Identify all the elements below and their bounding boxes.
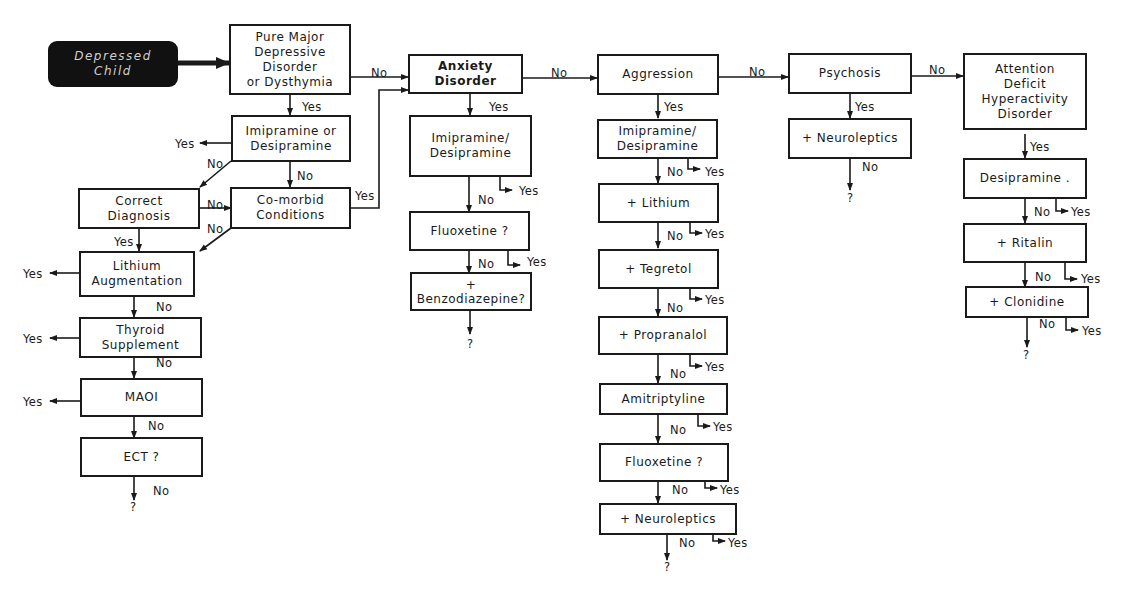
node-maoi: MAOI bbox=[80, 378, 203, 417]
label-no: No bbox=[297, 170, 313, 182]
label-yes: Yes bbox=[728, 537, 747, 549]
label-yes: Yes bbox=[664, 101, 683, 113]
node-desipramine: Desipramine . bbox=[963, 158, 1087, 199]
label-no: No bbox=[551, 67, 567, 79]
label-unknown: ? bbox=[130, 501, 136, 513]
node-correct-diagnosis: Correct Diagnosis bbox=[78, 188, 200, 229]
label-no: No bbox=[148, 420, 164, 432]
label-no: No bbox=[478, 194, 494, 206]
label-yes: Yes bbox=[23, 268, 42, 280]
label-yes: Yes bbox=[527, 256, 546, 268]
label-no: No bbox=[371, 67, 387, 79]
node-propranalol: + Propranalol bbox=[598, 316, 728, 355]
node-psychosis-neuroleptics: + Neuroleptics bbox=[788, 118, 912, 159]
label-yes: Yes bbox=[1081, 273, 1100, 285]
label-no: No bbox=[1035, 271, 1051, 283]
label-yes: Yes bbox=[1030, 141, 1049, 153]
node-aggression-neuroleptics: + Neuroleptics bbox=[599, 503, 737, 535]
node-adhd: Attention Deficit Hyperactivity Disorder bbox=[963, 53, 1087, 130]
node-ritalin: + Ritalin bbox=[963, 223, 1087, 263]
label-no: No bbox=[1039, 318, 1055, 330]
node-aggression-imipramine-desipramine: Imipramine/ Desipramine bbox=[597, 119, 718, 159]
node-comorbid-conditions: Co-morbid Conditions bbox=[230, 187, 351, 229]
label-no: No bbox=[679, 537, 695, 549]
label-no: No bbox=[207, 199, 223, 211]
node-amitriptyline: Amitriptyline bbox=[599, 383, 728, 415]
node-pure-major-depressive: Pure Major Depressive Disorder or Dysthy… bbox=[229, 24, 351, 95]
label-yes: Yes bbox=[855, 101, 874, 113]
label-no: No bbox=[153, 485, 169, 497]
label-yes: Yes bbox=[713, 421, 732, 433]
label-no: No bbox=[667, 302, 683, 314]
label-yes: Yes bbox=[705, 228, 724, 240]
node-clonidine: + Clonidine bbox=[965, 286, 1089, 318]
node-anxiety-disorder: Anxiety Disorder bbox=[408, 54, 523, 94]
node-anxiety-imipramine-desipramine: Imipramine/ Desipramine bbox=[409, 115, 532, 177]
label-yes: Yes bbox=[705, 294, 724, 306]
node-lithium: + Lithium bbox=[598, 183, 719, 223]
label-no: No bbox=[862, 161, 878, 173]
label-yes: Yes bbox=[705, 361, 724, 373]
node-aggression-fluoxetine: Fluoxetine ? bbox=[599, 443, 729, 482]
label-yes: Yes bbox=[175, 138, 194, 150]
label-no: No bbox=[670, 368, 686, 380]
label-yes: Yes bbox=[705, 166, 724, 178]
node-ect: ECT ? bbox=[80, 437, 203, 477]
label-yes: Yes bbox=[1071, 206, 1090, 218]
label-no: No bbox=[1034, 206, 1050, 218]
label-yes: Yes bbox=[720, 484, 739, 496]
label-no: No bbox=[207, 158, 223, 170]
start-node-depressed-child: Depressed Child bbox=[48, 41, 178, 87]
node-aggression: Aggression bbox=[597, 54, 719, 95]
label-no: No bbox=[667, 230, 683, 242]
label-no: No bbox=[749, 66, 765, 78]
label-yes: Yes bbox=[519, 185, 538, 197]
label-yes: Yes bbox=[23, 333, 42, 345]
label-yes: Yes bbox=[114, 236, 133, 248]
node-anxiety-fluoxetine: Fluoxetine ? bbox=[409, 211, 530, 251]
label-no: No bbox=[156, 301, 172, 313]
label-no: No bbox=[207, 223, 223, 235]
label-unknown: ? bbox=[1023, 349, 1029, 361]
label-unknown: ? bbox=[847, 192, 853, 204]
label-yes: Yes bbox=[1082, 325, 1101, 337]
label-no: No bbox=[672, 484, 688, 496]
node-psychosis: Psychosis bbox=[788, 53, 912, 94]
label-no: No bbox=[670, 424, 686, 436]
label-unknown: ? bbox=[664, 561, 670, 573]
label-no: No bbox=[929, 64, 945, 76]
label-yes: Yes bbox=[23, 396, 42, 408]
label-unknown: ? bbox=[467, 338, 473, 350]
node-benzodiazepine: + Benzodiazepine? bbox=[410, 272, 532, 311]
label-no: No bbox=[478, 258, 494, 270]
label-yes: Yes bbox=[489, 101, 508, 113]
node-tegretol: + Tegretol bbox=[598, 249, 719, 289]
node-lithium-augmentation: Lithium Augmentation bbox=[79, 251, 195, 297]
label-no: No bbox=[667, 166, 683, 178]
node-thyroid-supplement: Thyroid Supplement bbox=[79, 317, 202, 358]
label-no: No bbox=[156, 357, 172, 369]
label-yes: Yes bbox=[355, 190, 374, 202]
label-yes: Yes bbox=[302, 101, 321, 113]
node-imipramine-or-desipramine: Imipramine or Desipramine bbox=[231, 115, 351, 162]
